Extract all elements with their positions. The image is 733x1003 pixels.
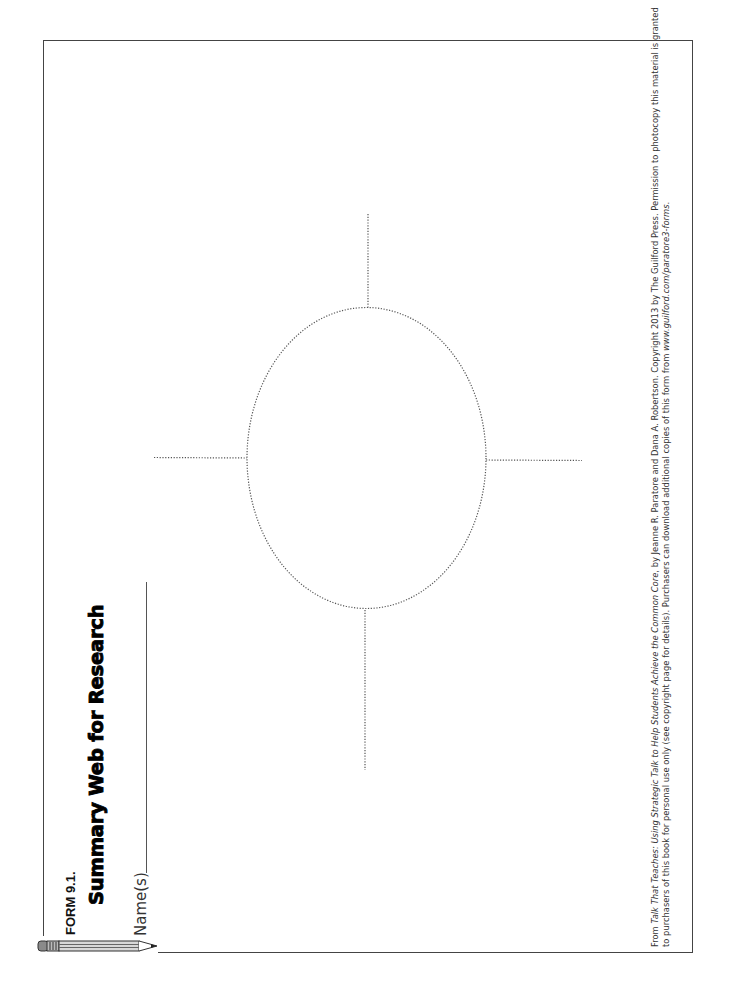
- book-title: Talk That Teaches: Using Strategic Talk …: [650, 573, 660, 924]
- footer-text: .: [661, 202, 671, 205]
- page-title: Summary Web for Research: [85, 605, 108, 905]
- pencil-icon: [37, 939, 161, 953]
- page-border-bottom: [158, 952, 693, 953]
- form-number: FORM 9.1.: [63, 871, 78, 935]
- spoke-right: [486, 460, 582, 461]
- footer-text: , by Jeanne R. Paratore and Dana A. Robe…: [650, 7, 660, 573]
- footer-copyright-line-2: to purchasers of this book for personal …: [661, 202, 671, 947]
- summary-web-diagram: [140, 200, 600, 800]
- center-ellipse[interactable]: [247, 308, 486, 609]
- footer-copyright-line-1: From Talk That Teaches: Using Strategic …: [650, 7, 660, 947]
- footer-text: to purchasers of this book for personal …: [661, 351, 671, 947]
- name-field-label: Name(s): [132, 872, 150, 936]
- footer-link[interactable]: www.guilford.com/paratore3-forms: [661, 204, 671, 351]
- footer-text: From: [650, 924, 660, 947]
- page-border-left: [43, 40, 44, 936]
- page-border-top: [44, 40, 693, 41]
- spoke-left: [154, 458, 247, 459]
- page-border-right: [692, 40, 693, 953]
